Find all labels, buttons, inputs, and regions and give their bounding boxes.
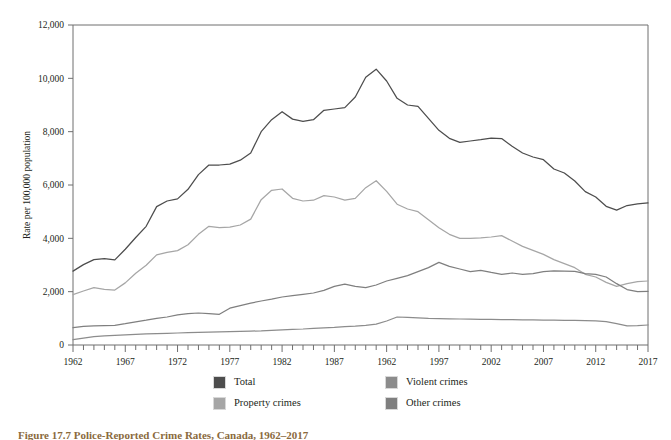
y-axis-tick-label: 12,000 bbox=[38, 20, 64, 30]
x-axis-tick-label: 1962 bbox=[377, 357, 396, 367]
x-axis-tick-label: 1967 bbox=[116, 357, 135, 367]
x-axis-tick-label: 2012 bbox=[586, 357, 605, 367]
legend-label: Violent crimes bbox=[406, 377, 467, 388]
legend-swatch-icon bbox=[213, 376, 226, 389]
x-axis-tick-label: 1977 bbox=[220, 357, 239, 367]
series-line-total bbox=[73, 69, 648, 271]
y-axis-tick-label: 4,000 bbox=[43, 234, 65, 244]
x-axis-tick-label: 1962 bbox=[64, 357, 83, 367]
series-line-violent-crimes bbox=[73, 262, 648, 327]
series-layer bbox=[73, 69, 648, 339]
legend-item[interactable]: Other crimes bbox=[385, 393, 557, 414]
legend-label: Other crimes bbox=[406, 398, 461, 409]
x-axis-tick-label: 1987 bbox=[325, 357, 344, 367]
legend-label: Total bbox=[234, 377, 255, 388]
legend-label: Property crimes bbox=[234, 398, 301, 409]
crime-rate-line-chart: 02,0004,0006,0008,00010,00012,000Rate pe… bbox=[0, 0, 671, 370]
chart-legend: TotalViolent crimesProperty crimesOther … bbox=[213, 372, 613, 414]
legend-item[interactable]: Violent crimes bbox=[385, 372, 557, 393]
y-axis-tick-label: 8,000 bbox=[43, 127, 65, 137]
x-axis-tick-label: 1997 bbox=[429, 357, 448, 367]
series-line-other-crimes bbox=[73, 317, 648, 340]
axis-spines bbox=[73, 25, 648, 345]
series-line-property-crimes bbox=[73, 181, 648, 295]
figure-caption: Figure 17.7 Police-Reported Crime Rates,… bbox=[18, 429, 658, 440]
x-axis-tick-label: 1982 bbox=[273, 357, 292, 367]
y-axis-tick-label: 10,000 bbox=[38, 74, 64, 84]
y-axis-tick-label: 2,000 bbox=[43, 287, 65, 297]
legend-swatch-icon bbox=[213, 397, 226, 410]
x-axis-tick-label: 2007 bbox=[534, 357, 553, 367]
x-axis-tick-label: 2017 bbox=[639, 357, 658, 367]
y-axis-tick-label: 0 bbox=[59, 340, 64, 350]
y-axis-title: Rate per 100,000 population bbox=[22, 131, 32, 239]
axis-layer: 02,0004,0006,0008,00010,00012,000Rate pe… bbox=[22, 20, 658, 367]
x-axis-tick-label: 2002 bbox=[482, 357, 501, 367]
legend-item[interactable]: Property crimes bbox=[213, 393, 385, 414]
legend-swatch-icon bbox=[385, 376, 398, 389]
legend-swatch-icon bbox=[385, 397, 398, 410]
y-axis-tick-label: 6,000 bbox=[43, 180, 65, 190]
legend-item[interactable]: Total bbox=[213, 372, 385, 393]
figure-container: 02,0004,0006,0008,00010,00012,000Rate pe… bbox=[0, 0, 671, 440]
x-axis-tick-label: 1972 bbox=[168, 357, 187, 367]
